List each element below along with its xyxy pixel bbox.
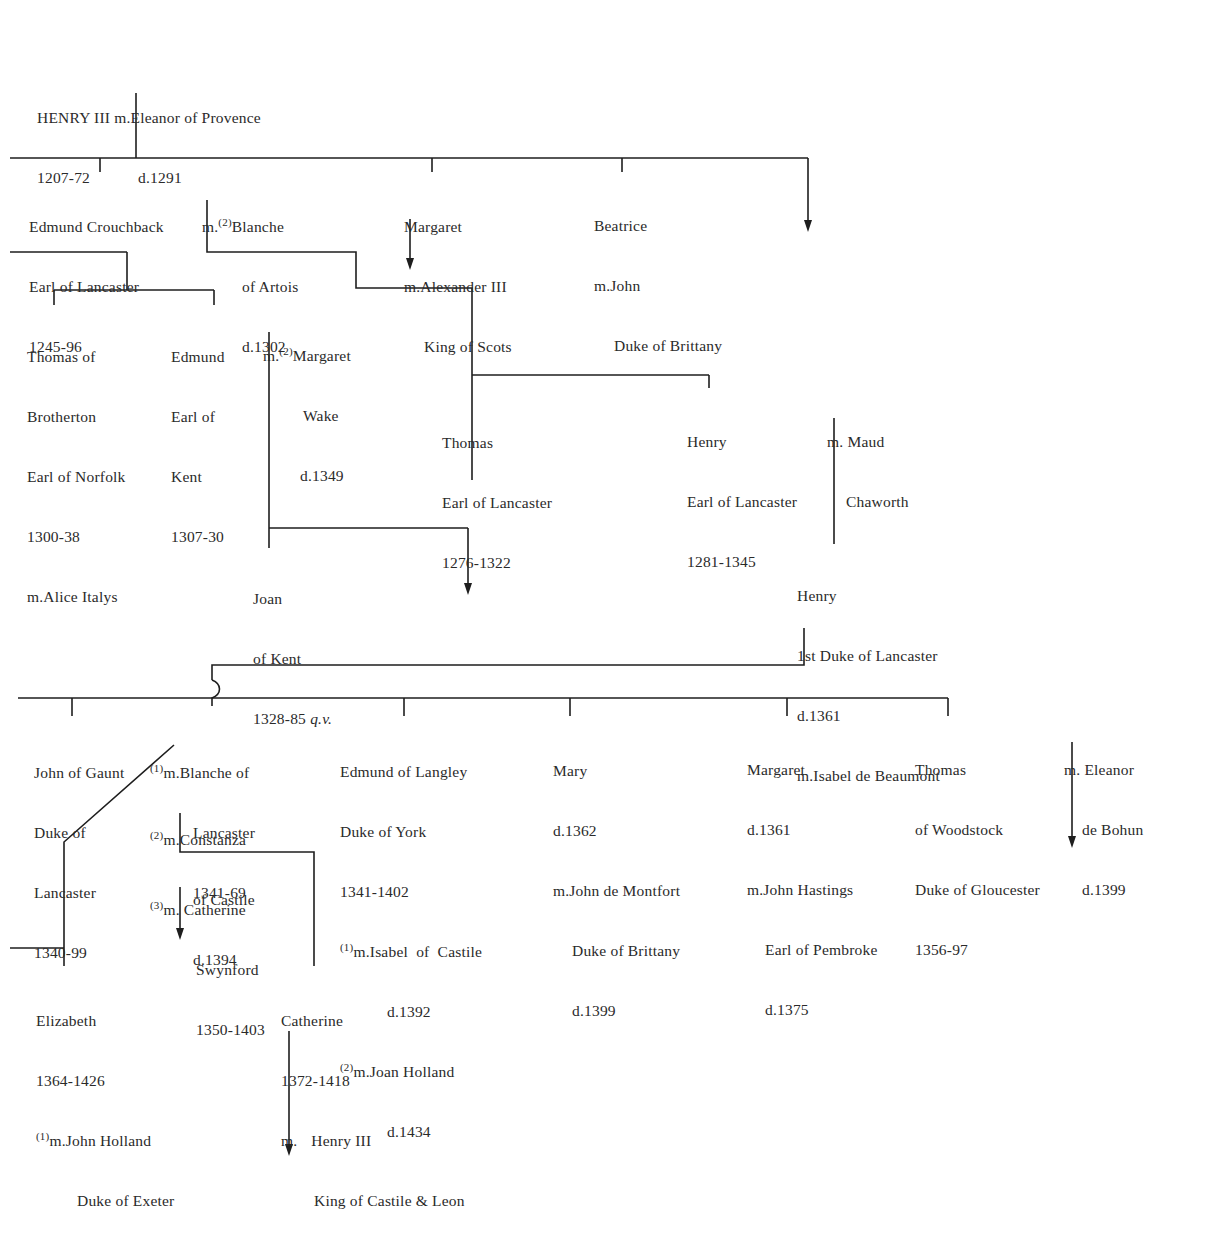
name-cont: of Kent bbox=[253, 649, 332, 669]
marriage-order: (1) bbox=[150, 762, 163, 774]
marriage-marker: m. bbox=[281, 1132, 297, 1149]
title-cont: Kent bbox=[171, 467, 225, 487]
name: Margaret bbox=[404, 217, 512, 237]
title: Earl of bbox=[171, 407, 225, 427]
marriage-order: (1) bbox=[340, 941, 353, 953]
title: of Artois bbox=[202, 277, 298, 297]
name: m. Catherine bbox=[163, 901, 245, 918]
name-cont: of Woodstock bbox=[915, 820, 1040, 840]
dates: d.1362 bbox=[553, 821, 680, 841]
name-cont: Chaworth bbox=[827, 492, 909, 512]
title: Earl of Lancaster bbox=[29, 277, 164, 297]
name: Thomas bbox=[915, 760, 1040, 780]
person-catherine-of-lancaster: Catherine 1372-1418 m.Henry III King of … bbox=[281, 971, 465, 1231]
spouse-title: Duke of Brittany bbox=[594, 336, 722, 356]
dates: 1281-1345 bbox=[687, 552, 797, 572]
name: Elizabeth bbox=[36, 1011, 182, 1031]
title: Earl of Lancaster bbox=[687, 492, 797, 512]
dates: 1307-30 bbox=[171, 527, 225, 547]
spouse-1: m.John Holland bbox=[49, 1132, 151, 1149]
name: Catherine bbox=[281, 1011, 465, 1031]
title: Earl of Norfolk bbox=[27, 467, 126, 487]
name: Edmund of Langley bbox=[340, 762, 482, 782]
dates: d.1349 bbox=[263, 466, 351, 486]
spouse-title: King of Scots bbox=[404, 337, 512, 357]
spouse-title: Duke of Brittany bbox=[553, 941, 680, 961]
marriage-order: (1) bbox=[36, 1130, 49, 1142]
dates: 1340-99 bbox=[34, 943, 124, 963]
title-cont: Lancaster bbox=[34, 883, 124, 903]
person-maud-chaworth: m. Maud Chaworth bbox=[827, 392, 909, 532]
name-cont: de Bohun bbox=[1064, 820, 1143, 840]
person-edmund-earl-of-kent: Edmund Earl of Kent 1307-30 bbox=[171, 307, 225, 567]
name: Thomas bbox=[442, 433, 552, 453]
name-cont: Wake bbox=[263, 406, 351, 426]
dates: 1328-85 bbox=[253, 710, 306, 727]
dates: 1364-1426 bbox=[36, 1071, 182, 1091]
name: Edmund bbox=[171, 347, 225, 367]
person-thomas-of-woodstock: Thomas of Woodstock Duke of Gloucester 1… bbox=[915, 720, 1040, 980]
spouse: m.John Hastings bbox=[747, 880, 878, 900]
spouse-title: Earl of Pembroke bbox=[747, 940, 878, 960]
spouse: m.Alice Italys bbox=[27, 587, 126, 607]
name: Edmund Crouchback bbox=[29, 217, 164, 237]
name: m. Maud bbox=[827, 432, 909, 452]
marriage-order: (2) bbox=[150, 829, 163, 841]
title: Duke of bbox=[34, 823, 124, 843]
dates: d.1399 bbox=[1064, 880, 1143, 900]
person-margaret-queen-of-scots: Margaret m.Alexander III King of Scots bbox=[404, 177, 512, 377]
spouse: m.Alexander III bbox=[404, 277, 512, 297]
person-margaret-hastings: Margaret d.1361 m.John Hastings Earl of … bbox=[747, 720, 878, 1040]
name: Thomas of bbox=[27, 347, 126, 367]
dates: 1356-97 bbox=[915, 940, 1040, 960]
name: Joan bbox=[253, 589, 332, 609]
name: Margaret bbox=[293, 347, 351, 364]
henry-iii-name: HENRY III m.Eleanor of Provence bbox=[37, 108, 261, 128]
person-thomas-earl-of-lancaster: Thomas Earl of Lancaster 1276-1322 bbox=[442, 393, 552, 593]
dates: 1341-1402 bbox=[340, 882, 482, 902]
name: m. Eleanor bbox=[1064, 760, 1143, 780]
marriage-order: (3) bbox=[150, 899, 163, 911]
spouse: Henry III bbox=[311, 1132, 371, 1149]
title: Earl of Lancaster bbox=[442, 493, 552, 513]
person-margaret-wake: m.(2)Margaret Wake d.1349 bbox=[263, 306, 351, 506]
name: Mary bbox=[553, 761, 680, 781]
person-henry-earl-of-lancaster: Henry Earl of Lancaster 1281-1345 bbox=[687, 392, 797, 592]
spouse-1: m.Isabel of Castile bbox=[353, 943, 482, 960]
name: Margaret bbox=[747, 760, 878, 780]
person-mary: Mary d.1362 m.John de Montfort Duke of B… bbox=[553, 721, 680, 1041]
spouse: m.John de Montfort bbox=[553, 881, 680, 901]
title: Duke of Gloucester bbox=[915, 880, 1040, 900]
name: Henry bbox=[687, 432, 797, 452]
title: 1st Duke of Lancaster bbox=[797, 646, 940, 666]
name: m.Blanche of bbox=[163, 764, 249, 781]
cross-reference: q.v. bbox=[310, 710, 332, 727]
person-elizabeth: Elizabeth 1364-1426 (1)m.John Holland Du… bbox=[36, 971, 182, 1239]
spouse-dates: d.1375 bbox=[747, 1000, 878, 1020]
name: John of Gaunt bbox=[34, 763, 124, 783]
spouse: m.John bbox=[594, 276, 722, 296]
dates: d.1361 bbox=[747, 820, 878, 840]
name: Blanche bbox=[232, 218, 284, 235]
dates: 1276-1322 bbox=[442, 553, 552, 573]
marriage-marker: m. bbox=[263, 347, 279, 364]
name-cont: Brotherton bbox=[27, 407, 126, 427]
name: Beatrice bbox=[594, 216, 722, 236]
person-eleanor-de-bohun: m. Eleanor de Bohun d.1399 bbox=[1064, 720, 1143, 920]
spouse-1-title: Duke of Exeter bbox=[36, 1191, 182, 1211]
dates: 1300-38 bbox=[27, 527, 126, 547]
person-joan-of-kent: Joan of Kent 1328-85 q.v. bbox=[253, 549, 332, 749]
person-john-of-gaunt: John of Gaunt Duke of Lancaster 1340-99 bbox=[34, 723, 124, 983]
spouse-dates: d.1399 bbox=[553, 1001, 680, 1021]
name: m.Constanza bbox=[163, 831, 246, 848]
title: Duke of York bbox=[340, 822, 482, 842]
dates: 1372-1418 bbox=[281, 1071, 465, 1091]
marriage-order: (2) bbox=[218, 216, 231, 228]
person-thomas-of-brotherton: Thomas of Brotherton Earl of Norfolk 130… bbox=[27, 307, 126, 627]
name: Henry bbox=[797, 586, 940, 606]
marriage-order: (2) bbox=[279, 345, 292, 357]
person-beatrice: Beatrice m.John Duke of Brittany bbox=[594, 176, 722, 376]
marriage-marker: m. bbox=[202, 218, 218, 235]
spouse-title: King of Castile & Leon bbox=[281, 1191, 465, 1211]
